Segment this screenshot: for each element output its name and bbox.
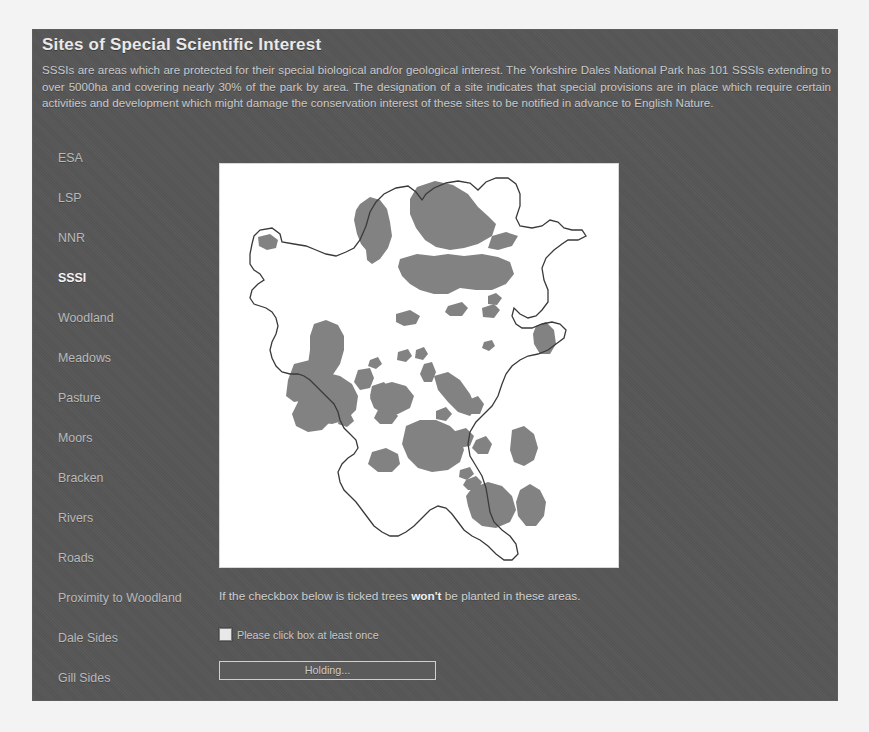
plant-exclusion-checkbox-label: Please click box at least once [237, 629, 379, 641]
sidebar-item-lsp[interactable]: LSP [42, 187, 220, 210]
controls-column: If the checkbox below is ticked trees wo… [219, 589, 689, 680]
page-title: Sites of Special Scientific Interest [42, 35, 321, 55]
application-window: Sites of Special Scientific Interest SSS… [0, 0, 869, 732]
status-button[interactable]: Holding... [219, 661, 436, 680]
intro-paragraph: SSSIs are areas which are protected for … [42, 62, 831, 112]
sidebar-item-bracken[interactable]: Bracken [42, 467, 220, 490]
sidebar-layer-list: ESALSPNNRSSSIWoodlandMeadowsPastureMoors… [42, 147, 220, 707]
checkbox-note-emphasis: won't [411, 589, 441, 603]
map-panel[interactable] [219, 163, 619, 568]
content-panel: Sites of Special Scientific Interest SSS… [32, 29, 838, 701]
sidebar-item-pasture[interactable]: Pasture [42, 387, 220, 410]
sidebar-item-moors[interactable]: Moors [42, 427, 220, 450]
sidebar-item-roads[interactable]: Roads [42, 547, 220, 570]
checkbox-row[interactable]: Please click box at least once [219, 628, 689, 641]
sidebar-item-nnr[interactable]: NNR [42, 227, 220, 250]
checkbox-note: If the checkbox below is ticked trees wo… [219, 589, 689, 603]
sidebar-item-gill-sides[interactable]: Gill Sides [42, 667, 220, 690]
sidebar-item-esa[interactable]: ESA [42, 147, 220, 170]
sidebar-item-meadows[interactable]: Meadows [42, 347, 220, 370]
sidebar-item-dale-sides[interactable]: Dale Sides [42, 627, 220, 650]
sidebar-item-sssi[interactable]: SSSI [42, 267, 220, 290]
plant-exclusion-checkbox[interactable] [219, 628, 232, 641]
checkbox-note-before: If the checkbox below is ticked trees [219, 589, 411, 603]
sidebar-item-woodland[interactable]: Woodland [42, 307, 220, 330]
map-svg [220, 164, 618, 567]
sidebar-item-rivers[interactable]: Rivers [42, 507, 220, 530]
checkbox-note-after: be planted in these areas. [441, 589, 580, 603]
sidebar-item-proximity-to-woodland[interactable]: Proximity to Woodland [42, 587, 220, 610]
